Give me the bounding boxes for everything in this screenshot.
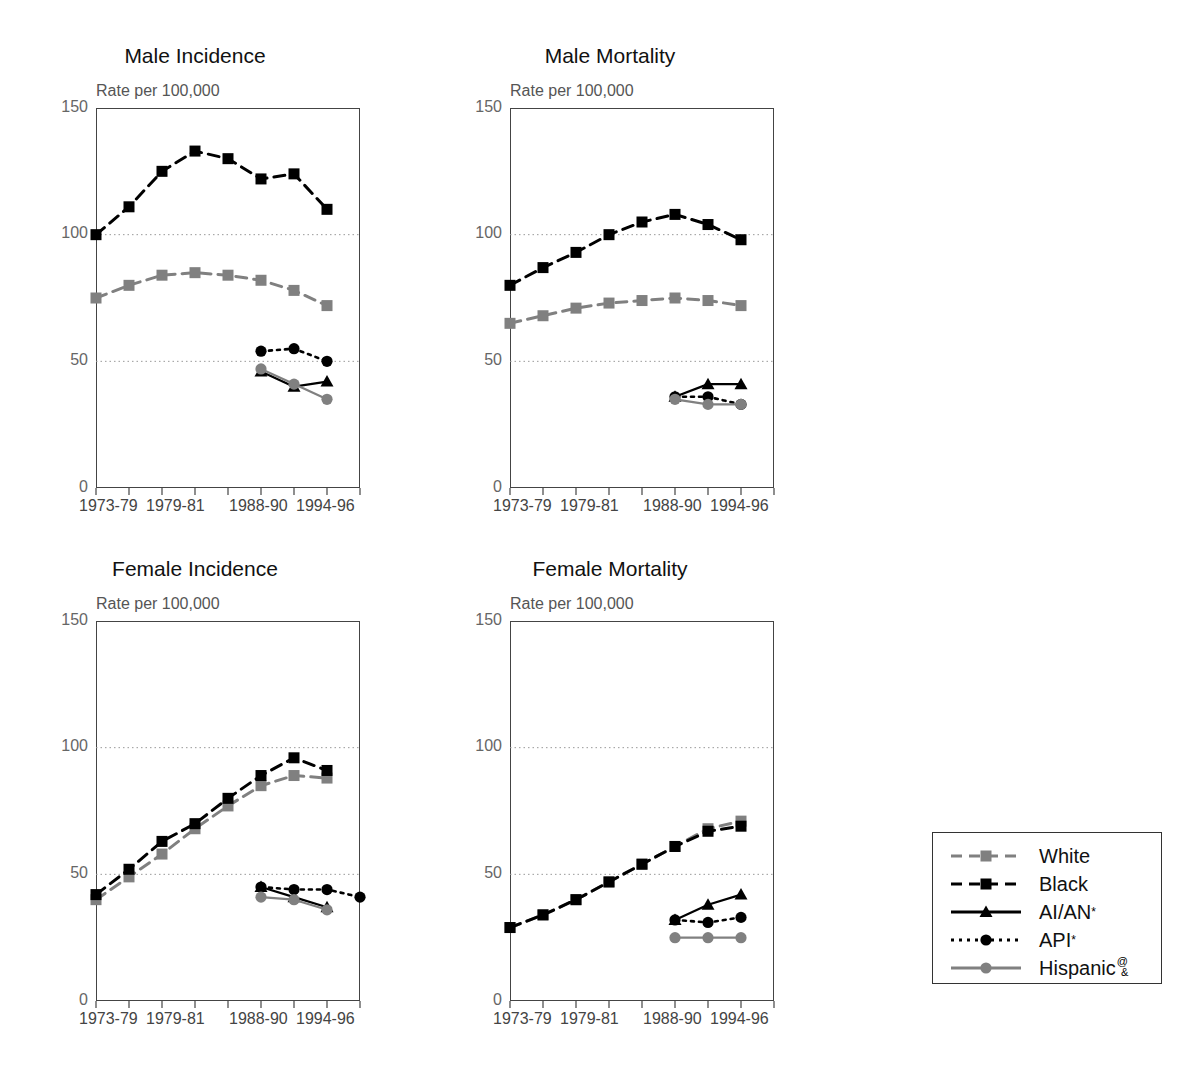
legend-label-api: API — [1039, 929, 1071, 952]
panel-male-mortality: Male Mortality Rate per 100,000 150 100 … — [410, 0, 860, 530]
legend-sup-aian: * — [1091, 905, 1096, 919]
figure-root: Male Incidence Rate per 100,000 150 100 … — [0, 0, 1188, 1065]
legend-label-hispanic: Hispanic — [1039, 957, 1116, 980]
legend-item-black[interactable]: Black — [1029, 871, 1088, 897]
panel-male-incidence: Male Incidence Rate per 100,000 150 100 … — [0, 0, 440, 530]
panel-female-incidence: Female Incidence Rate per 100,000 150 10… — [0, 513, 440, 1053]
legend-item-hispanic[interactable]: Hispanic@& — [1029, 955, 1134, 981]
legend-sub-hispanic: & — [1121, 966, 1128, 978]
legend-label-aian: AI/AN — [1039, 901, 1091, 924]
plot-svg — [0, 513, 440, 1053]
legend-item-aian[interactable]: AI/AN* — [1029, 899, 1096, 925]
legend-item-white[interactable]: White — [1029, 843, 1090, 869]
legend-label-black: Black — [1039, 873, 1088, 896]
legend-item-api[interactable]: API* — [1029, 927, 1076, 953]
plot-svg — [410, 513, 860, 1053]
panel-female-mortality: Female Mortality Rate per 100,000 150 10… — [410, 513, 860, 1053]
legend-label-white: White — [1039, 845, 1090, 868]
plot-svg — [410, 0, 860, 530]
plot-svg — [0, 0, 440, 530]
legend-sup-api: * — [1071, 933, 1076, 947]
legend: White Black AI/AN* API* Hispanic@& — [932, 832, 1162, 984]
